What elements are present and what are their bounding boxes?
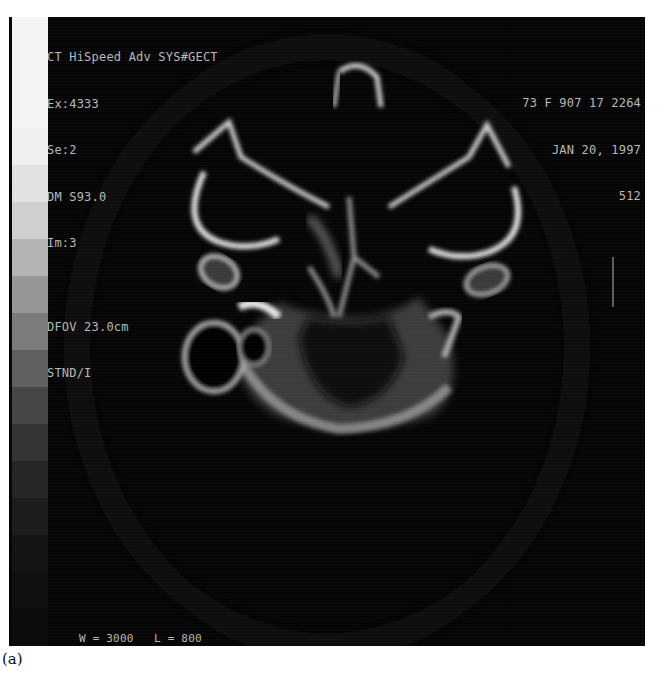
gray-scale-step	[12, 572, 48, 609]
ct-image: CT HiSpeed Adv SYS#GECT Ex:4333 Se:2 DM …	[9, 17, 645, 646]
overlay-top-right: 73 F 907 17 2264 JAN 20, 1997 512	[522, 65, 641, 236]
image-number: Im:3	[47, 236, 218, 252]
overlay-top-left: CT HiSpeed Adv SYS#GECT Ex:4333 Se:2 DM …	[47, 19, 218, 413]
gray-scale-step	[12, 128, 48, 165]
window-level-label: W = 3000 L = 800	[79, 631, 202, 647]
figure-caption: (a)	[2, 650, 23, 668]
scan-date: JAN 20, 1997	[522, 143, 641, 159]
gray-scale-step	[12, 424, 48, 461]
gray-scale-step	[12, 350, 48, 387]
gray-scale-step	[12, 165, 48, 202]
gray-scale-step	[12, 609, 48, 646]
gray-scale-step	[12, 535, 48, 572]
patient-info: 73 F 907 17 2264	[522, 96, 641, 112]
recon-kernel: STND/I	[47, 366, 218, 382]
gray-scale-step	[12, 461, 48, 498]
gray-scale-step	[12, 313, 48, 350]
exam-number: Ex:4333	[47, 97, 218, 113]
matrix-size: 512	[522, 189, 641, 205]
gray-scale-step	[12, 239, 48, 276]
gray-scale-bar	[12, 17, 48, 646]
gray-scale-step	[12, 202, 48, 239]
scanner-label: CT HiSpeed Adv SYS#GECT	[47, 50, 218, 66]
series-number: Se:2	[47, 143, 218, 159]
dm-value: DM S93.0	[47, 190, 218, 206]
gray-scale-step	[12, 498, 48, 535]
gray-scale-step	[12, 387, 48, 424]
gray-scale-step	[12, 17, 48, 54]
gray-scale-step	[12, 276, 48, 313]
gray-scale-step	[12, 54, 48, 91]
dfov-value: DFOV 23.0cm	[47, 320, 218, 336]
gray-scale-step	[12, 91, 48, 128]
